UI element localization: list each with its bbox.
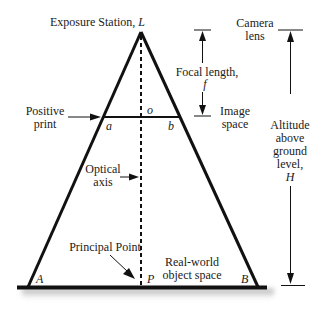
altitude-up-arrowhead-icon bbox=[287, 31, 294, 42]
optical-axis-label-2: axis bbox=[93, 175, 113, 189]
exposure-station-label: Exposure Station, L bbox=[50, 15, 145, 29]
real-world-label-1: Real-world bbox=[165, 255, 219, 269]
point-o-label: o bbox=[147, 103, 153, 117]
positive-print-label-1: Positive bbox=[26, 104, 65, 118]
real-world-label-2: object space bbox=[163, 268, 222, 282]
altitude-symbol: H bbox=[285, 170, 296, 184]
exposure-station-symbol: L bbox=[137, 15, 145, 29]
altitude-label-1: Altitude bbox=[270, 118, 309, 132]
altitude-label-3: ground bbox=[273, 144, 307, 158]
camera-lens-label-1: Camera bbox=[236, 16, 274, 30]
positive-print-arrowhead-icon bbox=[90, 114, 101, 121]
altitude-down-arrowhead-icon bbox=[287, 273, 294, 284]
ground-shadow bbox=[22, 289, 274, 301]
positive-print-label-2: print bbox=[34, 117, 57, 131]
altitude-label-2: above bbox=[276, 131, 305, 145]
focal-up-arrowhead-icon bbox=[199, 31, 206, 41]
point-b-label: b bbox=[168, 119, 174, 133]
optical-axis-arrowhead-icon bbox=[129, 174, 139, 181]
focal-down-arrowhead-icon bbox=[199, 105, 206, 115]
point-a-label: a bbox=[106, 119, 112, 133]
principal-point-label: Principal Point bbox=[69, 240, 141, 254]
altitude-label-4: level, bbox=[277, 157, 303, 171]
point-B-label: B bbox=[241, 272, 249, 286]
principal-point-arrow-shaft bbox=[110, 255, 128, 272]
photogrammetry-diagram: Exposure Station, L Camera lens Focal le… bbox=[0, 0, 326, 312]
focal-length-symbol: f bbox=[203, 77, 208, 91]
optical-axis-label-1: Optical bbox=[85, 162, 121, 176]
camera-lens-label-2: lens bbox=[245, 29, 265, 43]
point-P-label: P bbox=[146, 272, 155, 286]
point-A-label: A bbox=[35, 272, 44, 286]
focal-length-label: Focal length, bbox=[176, 65, 239, 79]
image-space-label-2: space bbox=[222, 117, 249, 131]
image-space-label-1: Image bbox=[220, 104, 250, 118]
